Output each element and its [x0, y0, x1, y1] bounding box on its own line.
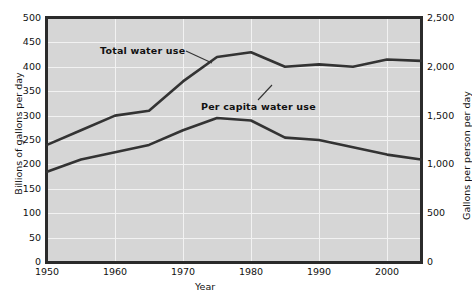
per-capita-water-use-label: Per capita water use	[201, 101, 316, 112]
x-axis-title: Year	[195, 281, 215, 292]
per-capita-water-use-leader-line	[258, 85, 272, 100]
per-capita-water-use-line	[47, 118, 421, 172]
total-water-use-line	[47, 52, 421, 145]
y-axis-right-title: Gallons per person per day	[461, 86, 472, 226]
y-axis-left-title: Billions of gallons per day	[13, 64, 24, 204]
total-water-use-leader-line	[186, 51, 212, 63]
total-water-use-label: Total water use	[100, 45, 185, 56]
